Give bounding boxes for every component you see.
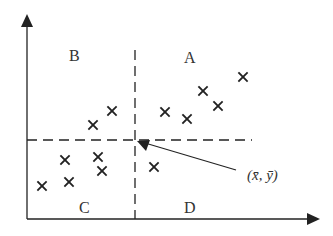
data-point-cross-icon	[61, 156, 69, 164]
data-point-cross-icon	[94, 153, 102, 161]
axes	[21, 14, 320, 225]
quadrant-label-a: A	[184, 49, 196, 66]
quadrant-label-b: B	[69, 47, 80, 64]
data-point-cross-icon	[150, 163, 158, 171]
data-point-cross-icon	[239, 73, 247, 81]
data-point-cross-icon	[98, 167, 106, 175]
y-axis-arrow-icon	[21, 14, 33, 27]
data-point-cross-icon	[108, 107, 116, 115]
data-point-cross-icon	[65, 178, 73, 186]
data-point-cross-icon	[89, 121, 97, 129]
mean-pointer-arrowhead-icon	[137, 140, 150, 151]
mean-lines	[27, 50, 252, 219]
quadrant-label-d: D	[184, 199, 196, 216]
data-point-cross-icon	[38, 182, 46, 190]
scatter-quadrant-diagram: B A C D (x̄, ȳ)	[0, 0, 333, 236]
data-point-cross-icon	[161, 108, 169, 116]
data-point-cross-icon	[199, 87, 207, 95]
data-points	[38, 73, 247, 190]
mean-label: (x̄, ȳ)	[247, 167, 278, 184]
data-point-cross-icon	[214, 102, 222, 110]
mean-pointer-line	[145, 143, 236, 170]
quadrant-label-c: C	[79, 199, 90, 216]
data-point-cross-icon	[183, 115, 191, 123]
x-axis-arrow-icon	[307, 213, 320, 225]
